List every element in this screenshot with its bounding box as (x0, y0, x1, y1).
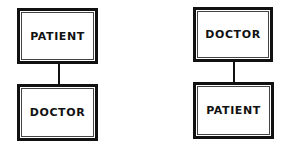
node-label: DOCTOR (30, 106, 85, 119)
left-top-node: PATIENT (17, 8, 98, 64)
left-connector (58, 64, 60, 84)
node-label: DOCTOR (205, 28, 260, 41)
right-bottom-node: PATIENT (193, 82, 274, 139)
right-top-node: DOCTOR (193, 7, 273, 62)
node-label: PATIENT (206, 104, 261, 117)
right-connector (233, 62, 235, 82)
node-label: PATIENT (30, 30, 85, 43)
left-bottom-node: DOCTOR (17, 84, 98, 141)
